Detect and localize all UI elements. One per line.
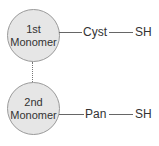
- second-monomer-node: 2nd Monomer: [7, 82, 60, 135]
- cyst-sh-bond-line: [109, 32, 133, 33]
- first-monomer-node: 1st Monomer: [7, 9, 60, 62]
- pan-label: Pan: [85, 107, 106, 121]
- pan-sh-bond-line: [109, 114, 133, 115]
- first-monomer-label-line2: Monomer: [10, 36, 56, 49]
- dotted-connector: [32, 62, 33, 82]
- second-monomer-label-line1: 2nd: [24, 96, 42, 109]
- cyst-label: Cyst: [83, 25, 107, 39]
- first-monomer-bond-line: [59, 32, 82, 33]
- second-sh-label: SH: [135, 107, 152, 121]
- first-sh-label: SH: [135, 25, 152, 39]
- monomer-diagram: 1st Monomer Cyst SH 2nd Monomer Pan SH: [0, 0, 159, 146]
- second-monomer-label-line2: Monomer: [10, 109, 56, 122]
- first-monomer-label-line1: 1st: [26, 23, 41, 36]
- second-monomer-bond-line: [59, 114, 84, 115]
